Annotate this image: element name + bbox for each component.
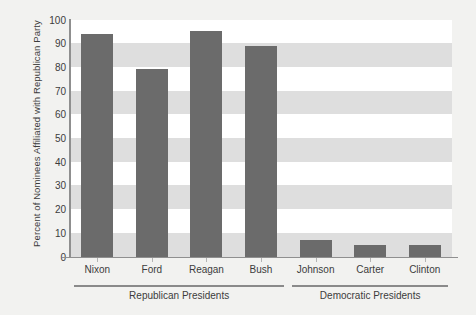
y-axis-tick-label: 60	[36, 109, 66, 120]
group-label: Democratic Presidents	[320, 290, 421, 301]
x-axis-tick-label: Nixon	[84, 264, 110, 275]
x-axis-line	[62, 257, 458, 259]
x-axis-tick-label: Bush	[250, 264, 273, 275]
y-axis-tick-label: 40	[36, 156, 66, 167]
y-axis-tick-label: 70	[36, 85, 66, 96]
bar	[409, 245, 441, 257]
x-axis-tick-label: Carter	[356, 264, 384, 275]
y-axis-line	[69, 19, 71, 257]
y-axis-tick-label: 100	[36, 14, 66, 25]
bar	[245, 46, 277, 257]
x-axis-tick-mark	[261, 258, 262, 262]
x-axis-tick-label: Ford	[142, 264, 163, 275]
bar	[81, 34, 113, 257]
group-rule	[74, 285, 284, 287]
x-axis-tick-label: Johnson	[297, 264, 335, 275]
y-axis-tick-label: 90	[36, 38, 66, 49]
bar	[300, 240, 332, 257]
bars-layer	[70, 20, 452, 257]
y-axis-tick-label: 10	[36, 227, 66, 238]
x-axis-tick-mark	[316, 258, 317, 262]
group-rule	[292, 285, 448, 287]
x-axis-tick-mark	[152, 258, 153, 262]
y-axis-tick-label: 30	[36, 180, 66, 191]
group-label: Republican Presidents	[129, 290, 229, 301]
bar	[354, 245, 386, 257]
x-axis-tick-mark	[370, 258, 371, 262]
y-axis-tick-label: 80	[36, 61, 66, 72]
x-axis-tick-label: Clinton	[409, 264, 440, 275]
x-axis-tick-mark	[97, 258, 98, 262]
y-axis-tick-labels: 0102030405060708090100	[36, 14, 66, 262]
bar	[136, 69, 168, 256]
bar-chart-figure: Percent of Nominees Affiliated with Repu…	[0, 0, 476, 315]
bar	[190, 31, 222, 256]
x-axis-tick-mark	[206, 258, 207, 262]
y-axis-tick-label: 20	[36, 204, 66, 215]
x-axis-tick-mark	[425, 258, 426, 262]
y-axis-tick-label: 50	[36, 133, 66, 144]
x-axis-tick-label: Reagan	[189, 264, 224, 275]
plot-area	[70, 20, 452, 257]
